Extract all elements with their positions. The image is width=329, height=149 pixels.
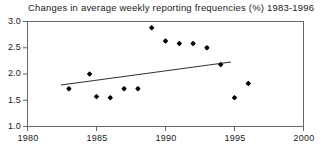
x-axis-label-1990: 1990 [149, 133, 183, 143]
data-point [87, 71, 92, 76]
plot-frame [28, 22, 304, 127]
data-point-core [88, 72, 92, 76]
chart-figure: Changes in average weekly reporting freq… [0, 0, 329, 149]
data-point-core [95, 95, 99, 99]
y-axis-label-2-0: 2.0 [0, 68, 21, 78]
y-axis-label-3-0: 3.0 [0, 16, 21, 26]
scatter-plot-canvas [0, 0, 329, 149]
data-point [204, 45, 209, 50]
data-point-core [205, 46, 209, 50]
trend-line [61, 62, 231, 85]
data-point [108, 95, 113, 100]
x-axis-ticks [28, 127, 304, 132]
data-point-core [246, 82, 250, 86]
data-point [163, 38, 168, 43]
y-axis-ticks [23, 22, 28, 127]
x-axis-label-1995: 1995 [218, 133, 252, 143]
data-point-core [108, 96, 112, 100]
data-point [94, 94, 99, 99]
data-point-core [164, 39, 168, 43]
x-axis-label-1980: 1980 [11, 133, 45, 143]
data-point [121, 86, 126, 91]
x-axis-label-2000: 2000 [287, 133, 321, 143]
y-axis-label-2-5: 2.5 [0, 42, 21, 52]
plot-frame-rect [28, 22, 304, 127]
y-axis-label-1-5: 1.5 [0, 95, 21, 105]
data-point-core [177, 42, 181, 46]
data-point-core [67, 87, 71, 91]
data-point [66, 86, 71, 91]
data-point-core [150, 26, 154, 30]
data-point-core [219, 63, 223, 67]
data-point [232, 95, 237, 100]
trend-line-segment [61, 62, 231, 85]
data-point [135, 86, 140, 91]
y-axis-label-1-0: 1.0 [0, 121, 21, 131]
data-point-core [136, 87, 140, 91]
data-point-core [233, 96, 237, 100]
data-point-core [191, 42, 195, 46]
x-axis-label-1985: 1985 [80, 133, 114, 143]
data-point [177, 41, 182, 46]
data-point-core [122, 87, 126, 91]
data-point [190, 41, 195, 46]
data-point [246, 81, 251, 86]
data-point [149, 25, 154, 30]
